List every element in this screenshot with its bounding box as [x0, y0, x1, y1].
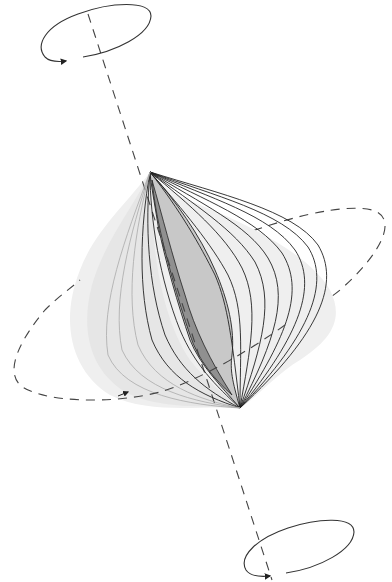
vortex-diagram: [0, 0, 392, 582]
top-rotation-ring: [41, 5, 151, 62]
bottom-rotation-ring: [244, 520, 354, 576]
diagram-svg: [0, 0, 392, 582]
